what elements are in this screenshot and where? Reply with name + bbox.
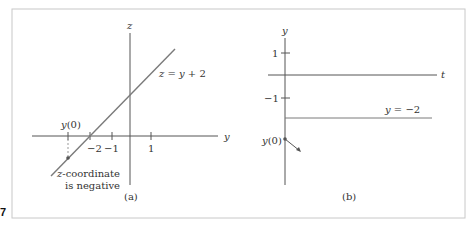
y-axis-label-b: y	[281, 25, 288, 36]
equilibrium-label: y = −2	[384, 104, 420, 115]
tick-label-1: 1	[148, 143, 154, 154]
t-axis-label: t	[441, 69, 446, 80]
line-equation-label: z = y + 2	[158, 68, 206, 79]
tick-label-neg1: −1	[104, 143, 119, 154]
figure-canvas: y z −2 −1 1 y(0) z = y + 2 z-coordinate …	[0, 0, 472, 225]
panel-a-caption: (a)	[124, 191, 138, 202]
y0-label: y(0)	[60, 119, 81, 130]
annotation-line-2: is negative	[65, 180, 120, 191]
arrowhead-icon	[296, 147, 301, 152]
line-z-equals-y-plus-2	[51, 49, 175, 176]
point-y0	[66, 156, 70, 160]
tick-label-b-1: 1	[272, 48, 278, 59]
annotation-line-1: z-coordinate	[56, 168, 120, 179]
panel-b-caption: (b)	[342, 191, 356, 202]
tick-label-neg2: −2	[87, 143, 102, 154]
panel-b: y t 1 −1 y = −2 y(0) (b)	[261, 25, 446, 202]
panel-a: y z −2 −1 1 y(0) z = y + 2 z-coordinate …	[32, 20, 230, 202]
tick-label-b-neg1: −1	[264, 93, 279, 104]
y0-label-b: y(0)	[261, 135, 282, 146]
y-axis-label: y	[223, 131, 230, 142]
z-axis-label: z	[126, 20, 133, 31]
